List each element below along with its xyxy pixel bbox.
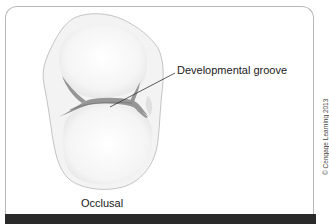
- upper-cusp: [59, 25, 147, 98]
- copyright-notice: © Cengage Learning 2013: [322, 99, 329, 175]
- callout-label-developmental-groove: Developmental groove: [177, 64, 287, 76]
- bottom-bar: [5, 214, 316, 224]
- view-label: Occlusal: [81, 197, 123, 209]
